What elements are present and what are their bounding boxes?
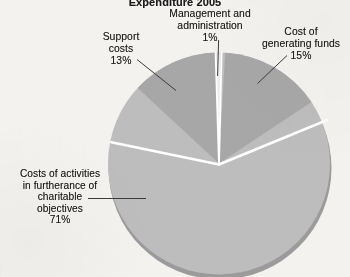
label-value: 15% [252,50,350,62]
label-line: in furtherance of [0,180,122,192]
label-line: administration [152,20,268,32]
label-line: charitable [0,191,122,203]
label-cost-of-generating-funds: Cost of generating funds 15% [252,26,350,61]
label-line: Support [84,31,158,43]
label-line: generating funds [252,38,350,50]
label-line: Costs of activities [0,168,122,180]
label-charitable-objectives: Costs of activities in furtherance of ch… [0,168,122,226]
label-line: Management and [152,8,268,20]
chart-title: Expenditure 2005 [0,0,350,8]
label-support-costs: Support costs 13% [84,31,158,66]
label-value: 1% [152,32,268,44]
label-line: objectives [0,203,122,215]
label-value: 13% [84,55,158,67]
label-value: 71% [0,214,122,226]
chart-canvas: Expenditure 2005 Management and administ… [0,0,350,277]
label-line: costs [84,43,158,55]
label-management-administration: Management and administration 1% [152,8,268,43]
label-line: Cost of [252,26,350,38]
